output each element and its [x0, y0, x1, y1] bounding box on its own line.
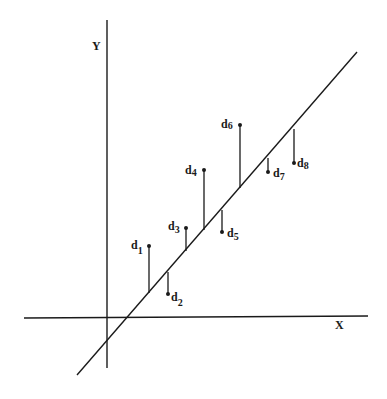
regression-line	[77, 52, 357, 375]
svg-text:d4: d4	[185, 163, 197, 178]
residual-d5: d5	[220, 210, 239, 242]
residual-d3: d3	[168, 219, 188, 251]
data-point-d3	[184, 226, 188, 230]
svg-text:d6: d6	[221, 117, 233, 131]
svg-text:d3: d3	[168, 219, 180, 235]
data-point-d2	[166, 292, 170, 296]
svg-text:d2: d2	[171, 290, 183, 308]
data-point-d1	[147, 244, 151, 248]
svg-text:d7: d7	[273, 166, 285, 182]
x-axis	[24, 316, 368, 318]
residual-d7: d7	[266, 158, 285, 182]
svg-text:d8: d8	[297, 156, 309, 171]
data-point-d5	[220, 230, 224, 234]
x-axis-label: X	[335, 318, 344, 332]
data-point-d8	[292, 161, 296, 165]
svg-text:d5: d5	[227, 226, 239, 242]
residual-d1: d1	[131, 238, 151, 293]
residual-d6: d6	[221, 117, 242, 188]
data-point-d6	[238, 123, 242, 127]
data-point-d7	[266, 170, 270, 174]
least-squares-diagram: Y X d1 d2 d3 d4 d5 d6 d7 d8	[0, 0, 387, 399]
y-axis-label: Y	[92, 39, 101, 53]
svg-text:d1: d1	[131, 238, 143, 256]
residual-d2: d2	[166, 272, 183, 308]
residual-d4: d4	[185, 163, 206, 230]
data-point-d4	[202, 168, 206, 172]
residual-d8: d8	[292, 129, 309, 171]
